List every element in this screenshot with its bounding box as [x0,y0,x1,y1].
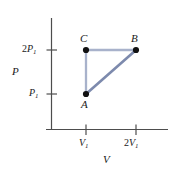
state-point-c [83,47,89,53]
point-label-c: C [80,33,87,44]
x-axis-label: V [103,154,110,165]
state-point-b [133,47,139,53]
y-tick-label-2p1-sub: 1 [33,48,36,55]
x-tick-label-2v1-sub: 1 [135,142,138,149]
state-point-a [83,91,89,97]
point-label-a: A [81,99,88,110]
x-tick-label-2v1: 2V1 [124,138,139,148]
x-tick-label-v1-sub: 1 [85,142,88,149]
y-tick-label-p1-sub: 1 [35,92,38,99]
process-line-ab [86,50,136,94]
pv-diagram-figure: P V 2P1 P1 V1 2V1 C B A [0,0,175,174]
x-tick-label-v1: V1 [79,138,89,148]
y-tick-label-2p1: 2P1 [22,44,37,54]
point-label-b: B [131,33,138,44]
y-axis-label: P [12,66,19,77]
y-tick-label-p1: P1 [29,88,39,98]
